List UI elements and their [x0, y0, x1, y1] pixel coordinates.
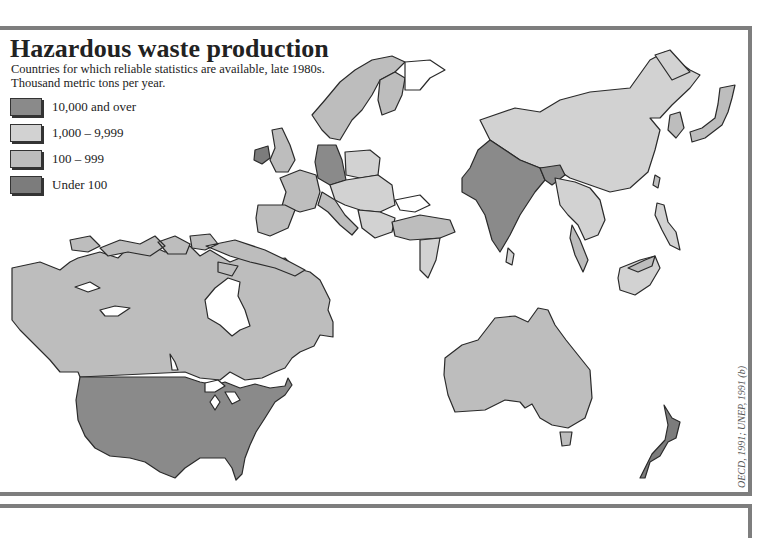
region-taiwan — [653, 175, 660, 188]
region-australia — [444, 308, 592, 428]
region-tasmania — [560, 432, 572, 446]
region-russia-nw — [405, 60, 445, 90]
region-korea — [668, 112, 684, 138]
region-ireland — [254, 146, 270, 164]
region-turkey — [392, 215, 455, 240]
region-middle-east — [420, 238, 440, 278]
region-new-zealand — [640, 405, 680, 478]
source-credit: OECD, 1991; UNEP, 1991 (b) — [736, 366, 747, 488]
region-balkans — [358, 210, 395, 238]
region-germany — [315, 145, 346, 185]
region-black-sea — [395, 195, 430, 212]
region-united-states — [76, 377, 292, 480]
region-sri-lanka — [506, 248, 514, 265]
region-iberia — [256, 205, 295, 236]
region-philippines — [655, 203, 680, 250]
region-poland — [345, 150, 380, 178]
region-uk — [270, 128, 295, 172]
region-japan — [690, 85, 735, 142]
region-finland — [378, 72, 405, 115]
